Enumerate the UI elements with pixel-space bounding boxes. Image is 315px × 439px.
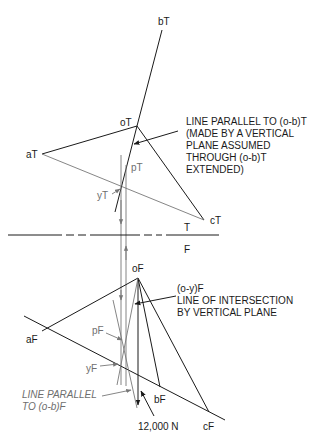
parallel-note-line-1: LINE PARALLEL — [22, 389, 97, 400]
top-note-line-5: EXTENDED) — [186, 164, 244, 175]
front-note-line-3: BY VERTICAL PLANE — [177, 307, 277, 318]
top-note-line-2: (MADE BY A VERTICAL — [186, 128, 294, 139]
top-note-line-4: THROUGH (o-b)T — [186, 152, 267, 163]
label-F: F — [184, 244, 190, 255]
label-cT: cT — [210, 215, 221, 226]
label-aT: aT — [26, 149, 38, 160]
label-yT: yT — [97, 190, 108, 201]
front-note-line-2: LINE OF INTERSECTION — [177, 295, 293, 306]
pF-leader — [106, 333, 122, 340]
top-note: LINE PARALLEL TO (o-b)T (MADE BY A VERTI… — [186, 116, 307, 175]
label-bT: bT — [158, 16, 170, 27]
parallel-note: LINE PARALLEL TO (o-b)F — [22, 389, 97, 412]
label-yF: yF — [86, 363, 97, 374]
line-oF-bF — [138, 278, 160, 387]
label-bF: bF — [154, 394, 166, 405]
top-note-line-1: LINE PARALLEL TO (o-b)T — [186, 116, 307, 127]
front-note: (o-y)F LINE OF INTERSECTION BY VERTICAL … — [177, 283, 293, 318]
line-oF-aF — [42, 278, 138, 331]
front-note-leader — [135, 296, 176, 304]
label-force: 12,000 N — [138, 421, 179, 432]
top-note-line-3: PLANE ASSUMED — [186, 140, 270, 151]
yF-leader — [100, 364, 118, 366]
label-oF: oF — [132, 263, 144, 274]
top-note-leader — [134, 131, 178, 144]
yT-leader — [112, 189, 120, 194]
descriptive-geometry-diagram: bT oT aT cT pT yT T F oF aF pF yF bF cF … — [0, 0, 315, 439]
line-parallel-ob-front — [113, 300, 137, 408]
force-leader — [141, 391, 154, 416]
label-pT: pT — [131, 162, 143, 173]
label-cF: cF — [203, 421, 214, 432]
front-note-line-1: (o-y)F — [177, 283, 204, 294]
label-T: T — [184, 222, 190, 233]
line-aT-cT — [42, 154, 204, 220]
label-pF: pF — [92, 325, 104, 336]
line-oT-aT — [42, 126, 137, 154]
line-oT-bT — [137, 30, 162, 126]
label-oT: oT — [120, 117, 132, 128]
parallel-note-leader — [102, 390, 131, 396]
label-aF: aF — [26, 334, 38, 345]
parallel-note-line-2: TO (o-b)F — [22, 401, 67, 412]
